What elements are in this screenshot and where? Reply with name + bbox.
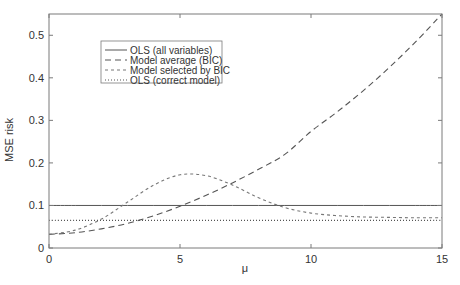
x-tick-label: 15 (436, 253, 448, 265)
mse-risk-chart: 05101500.10.20.30.40.5 μ MSE risk OLS (a… (0, 0, 460, 285)
y-tick-label: 0 (38, 242, 44, 254)
tick-labels: 05101500.10.20.30.40.5 (29, 29, 448, 265)
y-axis-label: MSE risk (3, 118, 15, 163)
x-tick-label: 0 (46, 253, 52, 265)
y-tick-label: 0.2 (29, 157, 44, 169)
y-tick-label: 0.3 (29, 114, 44, 126)
legend-item-label: OLS (correct model) (130, 75, 220, 86)
legend: OLS (all variables)Model average (BIC)Mo… (101, 41, 230, 86)
x-tick-label: 10 (305, 253, 317, 265)
series-model-selected-by-bic (49, 174, 442, 234)
y-tick-label: 0.5 (29, 29, 44, 41)
y-tick-label: 0.4 (29, 72, 44, 84)
y-tick-label: 0.1 (29, 199, 44, 211)
x-axis-label: μ (242, 262, 248, 274)
x-tick-label: 5 (177, 253, 183, 265)
